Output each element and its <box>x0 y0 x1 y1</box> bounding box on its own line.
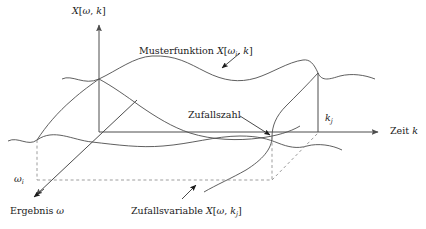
dash-kj-to-base <box>272 133 318 180</box>
ergebnis-leader-arrow <box>34 189 44 197</box>
vertical-axis-label-close: ] <box>102 5 106 16</box>
depth-axis-line <box>36 100 137 195</box>
depth-axis-label-word: Ergebnis <box>10 205 53 216</box>
zufallsvariable-annotation: Zufallsvariable X[ω, kj] <box>131 206 242 217</box>
tick-label-omega-i: ωi <box>14 174 24 185</box>
horizontal-axis-label-var: k <box>412 125 418 136</box>
figure-canvas: X[ω, k] Zeit k Ergebnis ω Musterfunktion… <box>0 0 426 229</box>
depth-axis-label-var: ω <box>56 205 64 216</box>
depth-axis-label: Ergebnis ω <box>10 206 64 216</box>
tick-label-kj: kj <box>325 113 333 124</box>
annotation-leader-group <box>34 53 270 199</box>
musterfunktion-head: X <box>217 45 224 56</box>
musterfunktion-arg1: ω <box>227 45 235 56</box>
depth-plane-curve-left <box>37 79 99 140</box>
zufallsvariable-arg1: ω <box>216 205 224 216</box>
musterfunktion-word: Musterfunktion <box>139 45 214 56</box>
tick-label-omega-i-var: ω <box>14 173 22 184</box>
tick-label-omega-i-sub: i <box>22 178 24 186</box>
dashed-construction-group <box>37 133 318 180</box>
horizontal-axis-label-word: Zeit <box>390 125 409 136</box>
musterfunktion-upper-curve <box>62 56 375 81</box>
zufallsvariable-word: Zufallsvariable <box>131 205 203 216</box>
zufallsvariable-leader-arrow <box>182 185 196 199</box>
horizontal-axis-label: Zeit k <box>390 126 418 136</box>
plane-frame-group <box>99 73 318 132</box>
vertical-axis-label: X[ω, k] <box>72 6 106 16</box>
musterfunktion-annotation: Musterfunktion X[ωi, k] <box>139 46 253 57</box>
musterfunktion-close: ] <box>249 45 253 56</box>
zufallsvariable-close: ] <box>238 205 242 216</box>
tick-label-kj-sub: j <box>331 117 333 125</box>
vertical-axis-label-head: X <box>72 5 79 16</box>
musterfunktion-lower-curve <box>8 135 342 150</box>
zufallszahl-annotation: Zufallszahl <box>188 110 241 120</box>
zufallsvariable-head: X <box>206 205 213 216</box>
